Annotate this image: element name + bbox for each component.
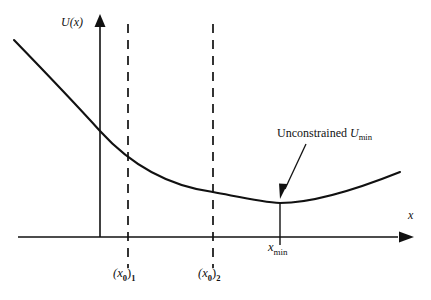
constraint-1-label: (x0)1 [113, 267, 135, 282]
annotation-symbol: U [350, 126, 359, 140]
annotation-arrowhead [279, 184, 288, 200]
figure-canvas [0, 0, 431, 300]
unconstrained-minimum-annotation: Unconstrained Umin [277, 127, 372, 142]
constraint-2-open: (x [198, 266, 208, 280]
y-axis-arrowhead [95, 14, 106, 27]
annotation-text: Unconstrained [277, 126, 350, 140]
utility-curve [14, 40, 400, 203]
constraint-1-index: 1 [131, 273, 135, 283]
constraint-2-index: 2 [216, 273, 220, 283]
x-axis-label: x [408, 209, 413, 221]
x-axis-arrowhead [399, 232, 414, 243]
x-min-subscript: min [274, 247, 288, 257]
constraint-2-label: (x0)2 [198, 267, 220, 282]
constraint-1-open: (x [113, 266, 123, 280]
annotation-symbol-subscript: min [359, 132, 372, 142]
x-min-label: xmin [268, 241, 288, 257]
y-axis-label: U(x) [61, 16, 83, 28]
utility-curve-figure: U(x) x (x0)1 (x0)2 xmin Unconstrained Um… [0, 0, 431, 300]
annotation-leader-line [285, 144, 306, 189]
